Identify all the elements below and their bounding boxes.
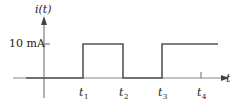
svg-text:1: 1 bbox=[84, 93, 88, 101]
x-tick-label-t3: t 3 bbox=[158, 86, 167, 101]
svg-text:2: 2 bbox=[124, 93, 128, 101]
x-tick-label-t1: t 1 bbox=[79, 86, 88, 101]
x-tick-label-t2: t 2 bbox=[119, 86, 128, 101]
x-tick-label-t4: t 4 bbox=[197, 86, 207, 101]
y-tick-label: 10 mA bbox=[9, 37, 46, 50]
waveform-diagram: i(t) 10 mA t t 1 t 2 t 3 t 4 bbox=[0, 0, 233, 105]
svg-text:3: 3 bbox=[163, 93, 167, 101]
svg-text:4: 4 bbox=[202, 93, 207, 101]
current-axis-arrow bbox=[41, 16, 47, 25]
signal-waveform bbox=[26, 44, 218, 78]
x-axis-label: t bbox=[226, 72, 231, 85]
y-axis-label: i(t) bbox=[35, 3, 52, 16]
